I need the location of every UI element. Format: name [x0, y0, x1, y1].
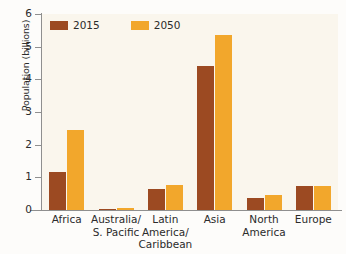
- y-axis-tick: [35, 112, 42, 113]
- bar-2050-africa: [67, 130, 84, 210]
- legend-swatch-2015: [50, 21, 68, 30]
- y-axis-tick: [35, 47, 42, 48]
- x-axis-line: [30, 210, 342, 211]
- plot-area: [42, 14, 338, 210]
- y-axis-tick-label: 6: [8, 7, 32, 19]
- legend-label-2050: 2050: [154, 19, 181, 31]
- y-axis-tick: [35, 79, 42, 80]
- y-axis-tick-label: 4: [8, 72, 32, 84]
- bar-2015-north-america: [247, 198, 264, 210]
- y-axis-tick-label: 5: [8, 40, 32, 52]
- y-axis-tick: [35, 177, 42, 178]
- y-axis-tick: [35, 145, 42, 146]
- legend-entry-2015[interactable]: 2015: [50, 19, 100, 31]
- bar-2015-asia: [197, 66, 214, 210]
- x-axis-tick-label: Europe: [281, 213, 346, 226]
- bar-2015-latin-america-caribbean: [148, 189, 165, 210]
- y-axis-tick-label: 2: [8, 138, 32, 150]
- bar-2050-asia: [215, 35, 232, 210]
- bar-2015-europe: [296, 186, 313, 210]
- legend-swatch-2050: [131, 21, 149, 30]
- y-axis-tick-label: 3: [8, 105, 32, 117]
- y-axis-tick: [35, 210, 42, 211]
- chart-legend: 20152050: [50, 19, 180, 31]
- bar-2050-latin-america-caribbean: [166, 185, 183, 210]
- bar-2050-europe: [314, 186, 331, 210]
- legend-label-2015: 2015: [73, 19, 100, 31]
- y-axis-tick: [35, 14, 42, 15]
- y-axis-tick-label: 0: [8, 203, 32, 215]
- bar-2050-north-america: [265, 195, 282, 210]
- legend-entry-2050[interactable]: 2050: [131, 19, 181, 31]
- bar-2015-africa: [49, 172, 66, 210]
- y-axis-tick-label: 1: [8, 170, 32, 182]
- population-bar-chart: Population (billions) 0123456 AfricaAust…: [0, 0, 346, 254]
